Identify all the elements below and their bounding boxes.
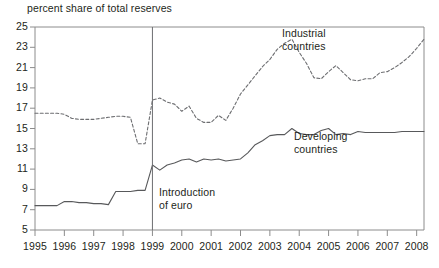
annotation-label-euro-introduction: Introduction of euro xyxy=(159,186,215,211)
series-line-developing xyxy=(35,129,424,206)
x-tick-label: 2008 xyxy=(397,240,437,252)
y-tick-label: 13 xyxy=(6,142,28,154)
series-label-developing-line1: Developing xyxy=(294,130,348,143)
chart-figure: percent share of total reserves 57911131… xyxy=(0,0,439,268)
chart-plot-area xyxy=(0,0,439,268)
series-label-developing-line2: countries xyxy=(294,143,348,156)
annotation-euro-line1: Introduction xyxy=(159,186,215,199)
y-tick-label: 21 xyxy=(6,61,28,73)
series-label-developing: Developing countries xyxy=(294,130,348,155)
y-tick-label: 19 xyxy=(6,81,28,93)
y-tick-label: 17 xyxy=(6,101,28,113)
y-tick-label: 9 xyxy=(6,182,28,194)
series-label-industrial: Industrial countries xyxy=(282,27,326,52)
y-tick-label: 11 xyxy=(6,162,28,174)
chart-series xyxy=(35,39,424,205)
series-line-industrial xyxy=(35,39,424,144)
annotation-euro-line2: of euro xyxy=(159,199,215,212)
series-label-industrial-line1: Industrial xyxy=(282,27,326,40)
y-tick-label: 15 xyxy=(6,122,28,134)
y-tick-label: 25 xyxy=(6,20,28,32)
y-tick-label: 5 xyxy=(6,223,28,235)
chart-axes xyxy=(30,27,424,236)
y-tick-label: 7 xyxy=(6,203,28,215)
y-tick-label: 23 xyxy=(6,40,28,52)
series-label-industrial-line2: countries xyxy=(282,40,326,53)
